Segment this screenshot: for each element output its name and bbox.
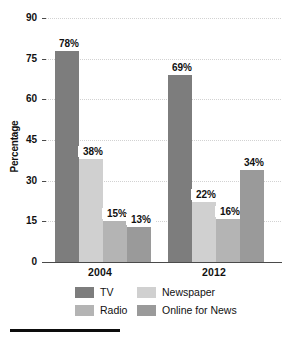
legend-swatch-tv [75, 287, 94, 298]
y-tick [42, 181, 46, 182]
bar-value-label: 34% [239, 157, 269, 168]
bar-newspaper-2004 [79, 159, 103, 262]
y-tick [42, 221, 46, 222]
x-axis-line [42, 262, 282, 263]
y-tick [42, 140, 46, 141]
legend-label-online: Online for News [162, 304, 237, 316]
gridline [45, 140, 281, 141]
y-tick-label: 60 [5, 94, 37, 104]
bar-online-for-news-2004 [127, 227, 151, 262]
gridline [45, 18, 281, 19]
legend-row-2: Radio Online for News [75, 302, 275, 318]
x-category-2004: 2004 [52, 266, 148, 278]
bar-value-label: 13% [126, 214, 156, 225]
bottom-rule [10, 329, 120, 332]
y-tick [42, 99, 46, 100]
legend-swatch-radio [75, 305, 94, 316]
plot-area: 0153045607590 78%38%15%13%69%22%16%34% [45, 18, 281, 262]
bar-radio-2012 [216, 219, 240, 262]
legend-item-online[interactable]: Online for News [137, 304, 237, 316]
bar-tv-2012 [168, 75, 192, 262]
bar-chart: Percentage 0153045607590 78%38%15%13%69%… [0, 0, 296, 337]
y-tick-label: 30 [5, 176, 37, 186]
y-tick [42, 59, 46, 60]
legend-label-radio: Radio [100, 304, 127, 316]
gridline [45, 99, 281, 100]
legend-item-newspaper[interactable]: Newspaper [137, 286, 215, 298]
y-tick-label: 45 [5, 135, 37, 145]
legend-row-1: TV Newspaper [75, 284, 275, 300]
bar-tv-2004 [55, 51, 79, 262]
legend-label-tv: TV [100, 286, 113, 298]
bar-radio-2004 [103, 221, 127, 262]
x-category-2012: 2012 [166, 266, 262, 278]
bar-online-for-news-2012 [240, 170, 264, 262]
y-tick-label: 90 [5, 13, 37, 23]
legend-item-radio[interactable]: Radio [75, 304, 137, 316]
bar-value-label: 78% [54, 38, 84, 49]
bar-value-label: 22% [191, 189, 221, 200]
y-tick-label: 15 [5, 216, 37, 226]
legend-swatch-online [137, 305, 156, 316]
bar-newspaper-2012 [192, 202, 216, 262]
bar-value-label: 38% [78, 146, 108, 157]
legend-label-newspaper: Newspaper [162, 286, 215, 298]
legend-item-tv[interactable]: TV [75, 286, 137, 298]
chart-legend: TV Newspaper Radio Online for News [75, 284, 275, 320]
gridline [45, 59, 281, 60]
legend-swatch-newspaper [137, 287, 156, 298]
bar-value-label: 69% [167, 62, 197, 73]
y-tick [42, 18, 46, 19]
y-tick-label: 0 [5, 257, 37, 267]
y-tick-label: 75 [5, 54, 37, 64]
